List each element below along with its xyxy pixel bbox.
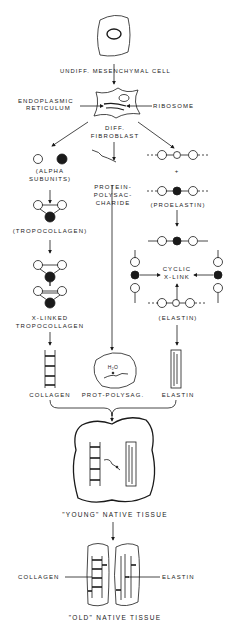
elastin-fiber-icon	[171, 350, 181, 388]
label-protein-line3: CHARIDE	[88, 200, 138, 207]
label-fibroblast-line2: FIBROBLAST	[80, 133, 150, 140]
label-tropocollagen: (TROPOCOLLAGEN)	[8, 228, 92, 235]
alpha1-subunit-icon	[34, 155, 43, 164]
elastin-chain-top	[147, 151, 210, 160]
young-tissue-blob-icon	[73, 418, 154, 502]
fibroblast-nucleus-icon	[119, 95, 129, 102]
label-alpha-line1: (ALPHA	[20, 168, 80, 175]
label-er-line1: ENDOPLASMIC	[18, 98, 78, 105]
label-proelastin: (PROELASTIN)	[145, 202, 211, 209]
old-collagen-blob-icon	[87, 544, 109, 606]
xlinked-tropocollagen-icon	[45, 298, 55, 308]
alpha2-subunit-icon	[57, 154, 67, 164]
label-xlinked-line1: X-LINKED	[15, 315, 85, 322]
label-er-line2: RETICULUM	[26, 105, 86, 112]
young-elastin-icon	[126, 442, 136, 486]
cell-nucleus-icon	[107, 29, 121, 39]
label-cyclic-line2: X-LINK	[157, 274, 197, 281]
label-fibroblast-line1: DIFF.	[95, 125, 135, 132]
collagen-ladder-icon	[45, 350, 55, 388]
label-elastin: ELASTIN	[150, 392, 206, 399]
label-elastin-mid: (ELASTIN)	[148, 315, 208, 322]
tropocollagen-triplet-icon	[45, 212, 55, 222]
label-cyclic-line1: CYCLIC	[157, 266, 197, 273]
label-ribosome: RIBOSOME	[153, 103, 203, 110]
label-protein-line1: PROTEIN-	[88, 184, 138, 191]
old-elastin-blob-icon	[115, 544, 140, 606]
label-h2o: H₂O	[105, 364, 121, 371]
protein-polysac-squiggle-icon	[92, 150, 116, 162]
label-xlinked-line2: TROPOCOLLAGEN	[10, 323, 90, 330]
label-old-elastin: ELASTIN	[162, 574, 212, 581]
label-old-tissue: "OLD" NATIVE TISSUE	[40, 614, 190, 621]
label-protein-line2: POLYSAC-	[88, 192, 138, 199]
label-alpha-line2: SUBUNITS)	[20, 176, 80, 183]
label-mesenchymal-cell: UNDIFF. MESENCHYMAL CELL	[60, 68, 170, 75]
merge-bracket	[50, 400, 176, 416]
proelastin-chain	[147, 187, 210, 196]
label-collagen: COLLAGEN	[20, 392, 80, 399]
label-plus: +	[172, 168, 182, 175]
mesenchymal-cell-icon	[98, 15, 131, 56]
young-collagen-ladder-icon	[90, 442, 100, 486]
label-old-collagen: COLLAGEN	[18, 574, 68, 581]
label-prot-polysac: PROT-POLYSAG.	[80, 392, 146, 399]
label-young-tissue: "YOUNG" NATIVE TISSUE	[40, 511, 190, 518]
er-strand-icon	[104, 103, 126, 106]
fibroblast-cell-icon	[94, 88, 140, 118]
